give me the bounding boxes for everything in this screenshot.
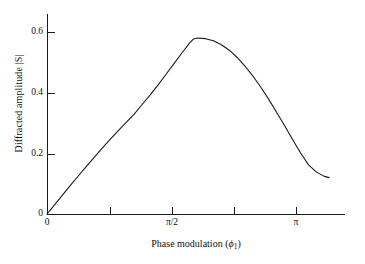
y-tick-0.2 (48, 154, 55, 155)
x-tick-pi-over-2 (172, 207, 173, 214)
x-axis-line (47, 214, 345, 215)
x-tick-label-0: 0 (27, 217, 67, 228)
x-tick-pi (296, 207, 297, 214)
y-axis-line (47, 14, 48, 215)
x-tick-label-pi-over-2: π/2 (152, 217, 192, 228)
x-tick-pi-over-4 (110, 207, 111, 214)
x-tick-label-pi: π (276, 217, 316, 228)
data-curve (47, 38, 329, 214)
y-axis-title: Diffracted amplitude |S| (13, 24, 24, 184)
x-axis-title-suffix: ) (237, 238, 240, 249)
chart-figure: 0.6 0.4 0.2 0 0 π/2 π Diffracted amplitu… (0, 0, 365, 264)
x-axis-title-prefix: Phase modulation ( (151, 238, 228, 249)
x-axis-title: Phase modulation (ϕ1) (47, 238, 345, 251)
y-tick-0.4 (48, 93, 55, 94)
x-tick-3pi-over-4 (234, 207, 235, 214)
y-tick-0.6 (48, 32, 55, 33)
x-tick-0 (47, 207, 48, 214)
